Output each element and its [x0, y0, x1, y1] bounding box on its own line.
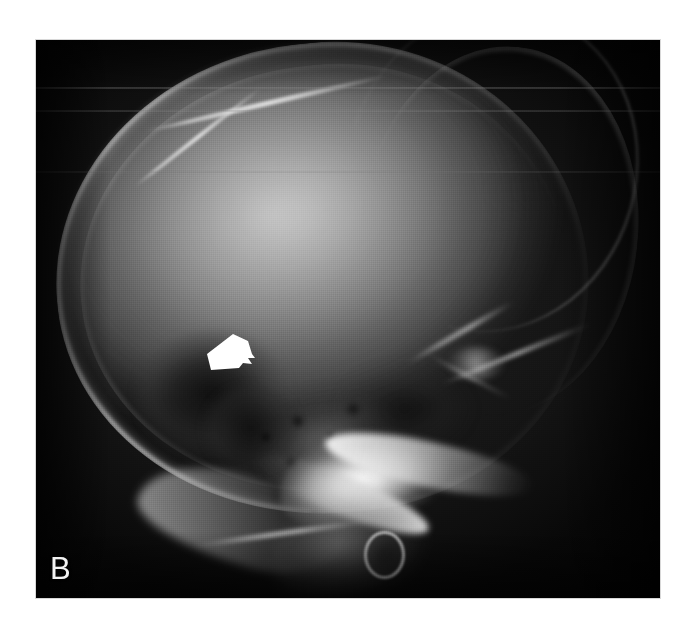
panel-label: B	[50, 553, 71, 584]
ring-opacity-structure	[364, 531, 405, 579]
film-scan-line	[36, 87, 660, 89]
lateral-skull-radiograph: B	[36, 40, 660, 598]
temporomandibular-joint-shadow	[448, 347, 504, 380]
annotation-arrow-icon	[203, 332, 257, 372]
figure-page: B	[0, 0, 693, 641]
film-scan-line	[36, 110, 660, 112]
film-scan-line	[36, 171, 660, 173]
arrow-polygon	[207, 334, 255, 370]
